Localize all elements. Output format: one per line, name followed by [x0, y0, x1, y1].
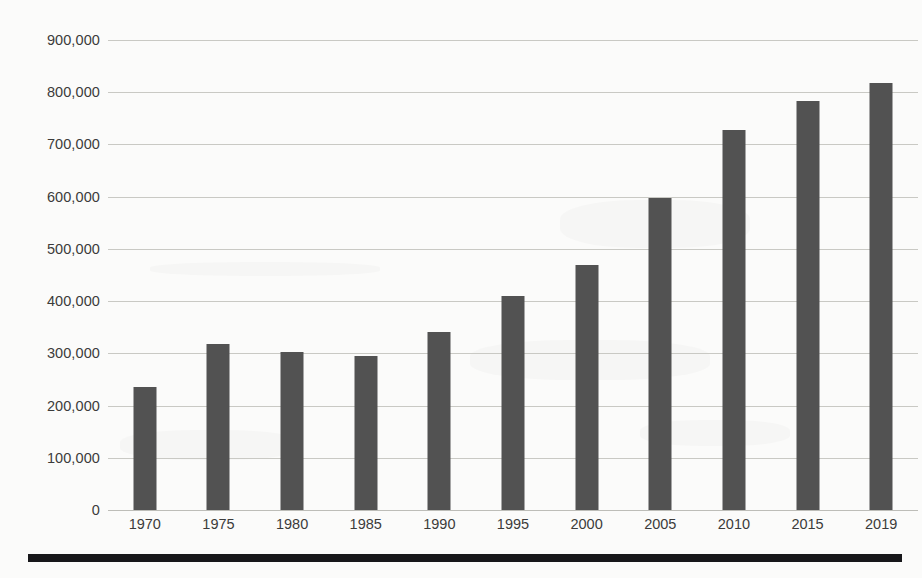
- bar-1990[interactable]: [428, 332, 451, 510]
- bar-2015[interactable]: [796, 101, 819, 510]
- y-tick-label: 800,000: [10, 84, 100, 100]
- x-axis-tick-labels: 1970197519801985199019952000200520102015…: [108, 516, 918, 546]
- y-tick-label: 400,000: [10, 293, 100, 309]
- gridline-0: [108, 510, 918, 511]
- bar-2000[interactable]: [575, 265, 598, 510]
- bar-chart-figure: 0100,000200,000300,000400,000500,000600,…: [0, 0, 922, 578]
- gridline-800000: [108, 92, 918, 93]
- bar-1975[interactable]: [207, 344, 230, 510]
- y-tick-label: 200,000: [10, 398, 100, 414]
- x-tick-label-2005: 2005: [625, 516, 695, 532]
- y-tick-label: 700,000: [10, 136, 100, 152]
- x-tick-label-1970: 1970: [110, 516, 180, 532]
- y-tick-label: 100,000: [10, 450, 100, 466]
- x-tick-label-1995: 1995: [478, 516, 548, 532]
- x-tick-label-1990: 1990: [404, 516, 474, 532]
- bar-1980[interactable]: [281, 352, 304, 510]
- plot-area: [108, 40, 918, 510]
- bar-1985[interactable]: [354, 356, 377, 510]
- y-tick-label: 300,000: [10, 345, 100, 361]
- bar-2010[interactable]: [722, 130, 745, 510]
- x-tick-label-1985: 1985: [331, 516, 401, 532]
- bar-2005[interactable]: [649, 198, 672, 510]
- x-tick-label-2000: 2000: [552, 516, 622, 532]
- bar-2019[interactable]: [870, 83, 893, 510]
- y-tick-label: 500,000: [10, 241, 100, 257]
- x-tick-label-1980: 1980: [257, 516, 327, 532]
- y-tick-label: 600,000: [10, 189, 100, 205]
- y-axis-tick-labels: 0100,000200,000300,000400,000500,000600,…: [0, 40, 100, 510]
- bar-1970[interactable]: [133, 387, 156, 510]
- x-tick-label-2019: 2019: [846, 516, 916, 532]
- bar-1995[interactable]: [502, 296, 525, 510]
- gridline-900000: [108, 40, 918, 41]
- y-tick-label: 900,000: [10, 32, 100, 48]
- x-tick-label-2015: 2015: [773, 516, 843, 532]
- x-tick-label-2010: 2010: [699, 516, 769, 532]
- y-tick-label: 0: [10, 502, 100, 518]
- x-tick-label-1975: 1975: [183, 516, 253, 532]
- bottom-rule-divider: [28, 554, 902, 562]
